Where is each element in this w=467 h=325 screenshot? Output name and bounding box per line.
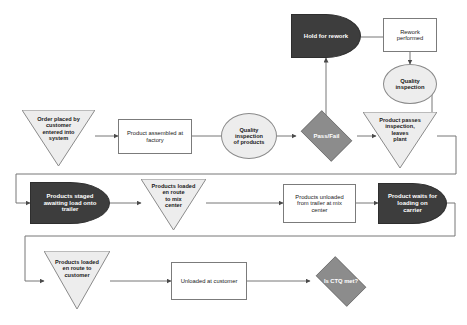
node-label: Hold for rework	[292, 33, 360, 40]
node-is-ctq-met[interactable]: Is CTQ met?	[310, 262, 372, 301]
node-label: Quality inspection of products	[222, 127, 276, 146]
node-quality-inspection[interactable]: Quality inspection	[383, 64, 437, 104]
node-label: Rework performed	[384, 29, 436, 42]
flowchart-canvas: Order placed by customer entered into sy…	[0, 0, 467, 325]
node-label: Unloaded at customer	[172, 278, 246, 284]
node-label: Quality inspection	[384, 78, 436, 91]
node-label: Product passes inspection, leaves plant	[363, 117, 437, 142]
node-products-staged[interactable]: Products staged awaiting load onto trail…	[30, 182, 110, 224]
node-products-loaded-customer[interactable]: Products loaded en route to customer	[44, 251, 110, 309]
node-label: Products loaded en route to mix center	[141, 183, 206, 208]
node-product-passes-inspection[interactable]: Product passes inspection, leaves plant	[363, 112, 437, 168]
node-label: Pass/Fail	[296, 133, 357, 140]
node-label: Products staged awaiting load onto trail…	[31, 193, 109, 213]
node-products-loaded-mix-center[interactable]: Products loaded en route to mix center	[141, 179, 206, 230]
node-order-placed[interactable]: Order placed by customer entered into sy…	[22, 110, 95, 166]
node-label: Is CTQ met?	[310, 278, 372, 284]
node-hold-for-rework[interactable]: Hold for rework	[291, 14, 361, 58]
node-unloaded-at-customer[interactable]: Unloaded at customer	[171, 262, 247, 300]
node-pass-fail[interactable]: Pass/Fail	[296, 115, 357, 157]
node-label: Product waits for loading on carrier	[379, 193, 446, 213]
node-rework-performed[interactable]: Rework performed	[383, 18, 437, 52]
node-label: Products unloaded from trailer at mix ce…	[284, 194, 355, 213]
node-label: Order placed by customer entered into sy…	[22, 116, 95, 141]
node-product-assembled[interactable]: Product assembled at factory	[118, 119, 192, 154]
node-products-unloaded-mix-center[interactable]: Products unloaded from trailer at mix ce…	[283, 184, 356, 223]
node-quality-inspection-products[interactable]: Quality inspection of products	[221, 113, 277, 159]
node-label: Products loaded en route to customer	[44, 259, 110, 278]
node-label: Product assembled at factory	[119, 130, 191, 143]
node-product-waits-carrier[interactable]: Product waits for loading on carrier	[378, 183, 447, 224]
